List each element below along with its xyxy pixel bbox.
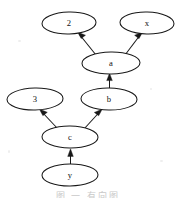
node-x-label: x xyxy=(145,18,150,28)
node-b-label: b xyxy=(107,94,111,104)
node-a-label: a xyxy=(109,58,113,68)
graph-diagram: 2 x a b 3 c xyxy=(0,0,176,198)
edge-c-to-3 xyxy=(39,109,58,129)
edge-b-to-a xyxy=(107,73,113,88)
edge-y-to-c-arrowhead xyxy=(68,149,74,157)
node-y[interactable]: y xyxy=(42,164,98,186)
node-layer: 2 x a b 3 c xyxy=(7,11,175,186)
node-2-label: 2 xyxy=(67,18,71,28)
node-x[interactable]: x xyxy=(120,11,175,34)
node-b[interactable]: b xyxy=(81,88,137,111)
node-c[interactable]: c xyxy=(42,126,98,149)
node-y-label: y xyxy=(68,170,73,180)
node-2[interactable]: 2 xyxy=(42,11,97,34)
scan-speck xyxy=(160,160,163,162)
edge-a-to-2 xyxy=(78,32,97,55)
node-3[interactable]: 3 xyxy=(7,87,63,110)
edge-y-to-c xyxy=(68,149,74,164)
scan-speck xyxy=(8,150,10,153)
edge-a-to-x xyxy=(125,32,143,55)
edge-c-to-b xyxy=(84,109,102,129)
node-3-label: 3 xyxy=(33,94,37,104)
graph-canvas: 2 x a b 3 c xyxy=(0,0,176,198)
scan-speck xyxy=(150,88,152,90)
scan-speck xyxy=(18,40,21,42)
edge-c-to-b-arrowhead xyxy=(94,109,102,116)
figure-caption: 图 ⼀ 有向图 xyxy=(0,191,176,198)
node-a[interactable]: a xyxy=(82,52,140,75)
node-c-label: c xyxy=(68,132,72,142)
